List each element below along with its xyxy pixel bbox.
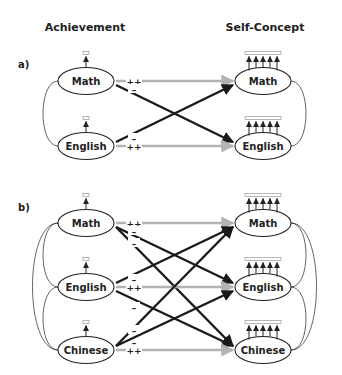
left-correlation-english-chinese	[43, 287, 58, 350]
path-sign-label: –	[132, 227, 137, 237]
achievement-node-label-chinese: Chinese	[64, 345, 109, 356]
path-sign-label: –	[132, 326, 137, 336]
panel-a-label: a)	[18, 59, 29, 70]
left-correlation-math-english	[43, 81, 58, 146]
panel-b: b) ++–––++–––++MathMathEnglishEnglishChi…	[18, 194, 317, 364]
self-concept-node-label-math: Math	[249, 218, 278, 229]
self-concept-header: Self-Concept	[226, 21, 305, 34]
path-sign-label: –	[132, 303, 137, 313]
achievement-node-label-math: Math	[72, 218, 101, 229]
self-concept-node-label-chinese: Chinese	[241, 345, 286, 356]
indicator-box	[83, 117, 89, 120]
achievement-node-label-english: English	[65, 282, 106, 293]
achievement-node-label-math: Math	[72, 76, 101, 87]
self-concept-node-label-math: Math	[249, 76, 278, 87]
panel-a: a) ++––++MathMathEnglishEnglish	[18, 52, 306, 160]
indicator-box	[83, 194, 89, 197]
indicator-box	[83, 258, 89, 261]
right-correlation-math-english	[291, 81, 306, 146]
left-correlation-math-english	[43, 223, 58, 287]
path-sign-label: ++	[126, 142, 141, 152]
right-correlation-english-chinese	[291, 287, 306, 350]
self-concept-node-label-english: English	[242, 282, 283, 293]
indicator-box-group	[245, 258, 281, 261]
indicator-box-group	[245, 117, 281, 120]
achievement-node-label-english: English	[65, 141, 106, 152]
achievement-header: Achievement	[45, 21, 126, 34]
right-correlation-math-english	[291, 223, 306, 287]
indicator-box	[83, 321, 89, 324]
self-concept-node-label-english: English	[242, 141, 283, 152]
path-diagram: Achievement Self-Concept a) ++––++MathMa…	[0, 0, 342, 375]
path-sign-label: –	[132, 239, 137, 249]
path-sign-label: –	[132, 85, 137, 95]
indicator-box-group	[245, 321, 281, 324]
indicator-box-group	[245, 52, 281, 55]
path-sign-label: ++	[126, 283, 141, 293]
panel-b-label: b)	[18, 202, 30, 213]
indicator-box	[83, 52, 89, 55]
indicator-box-group	[245, 194, 281, 197]
path-sign-label: ++	[126, 346, 141, 356]
